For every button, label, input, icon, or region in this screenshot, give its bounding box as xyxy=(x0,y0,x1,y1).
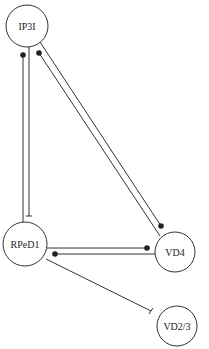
excitatory-dot-icon xyxy=(52,251,58,257)
excitatory-dot-icon xyxy=(20,52,26,58)
node-label: VD4 xyxy=(165,247,184,258)
node-label: RPeD1 xyxy=(11,239,40,250)
node-ip3i: IP3I xyxy=(6,5,48,47)
edge-ip3i-to-vd4 xyxy=(40,42,161,226)
edge-rped1-to-vd23 xyxy=(46,259,151,311)
excitatory-dot-icon xyxy=(144,245,150,251)
node-rped1: RPeD1 xyxy=(3,222,47,266)
circuit-diagram: IP3I RPeD1 VD4 VD2/3 xyxy=(0,0,209,349)
node-label: IP3I xyxy=(18,21,35,32)
node-label: VD2/3 xyxy=(163,321,190,332)
node-vd4: VD4 xyxy=(155,232,195,272)
node-vd23: VD2/3 xyxy=(157,306,197,346)
edge-vd4-to-ip3i xyxy=(39,53,160,236)
excitatory-dot-icon xyxy=(36,50,42,56)
excitatory-dot-icon xyxy=(158,223,164,229)
inhibitory-bar-icon xyxy=(149,308,153,314)
